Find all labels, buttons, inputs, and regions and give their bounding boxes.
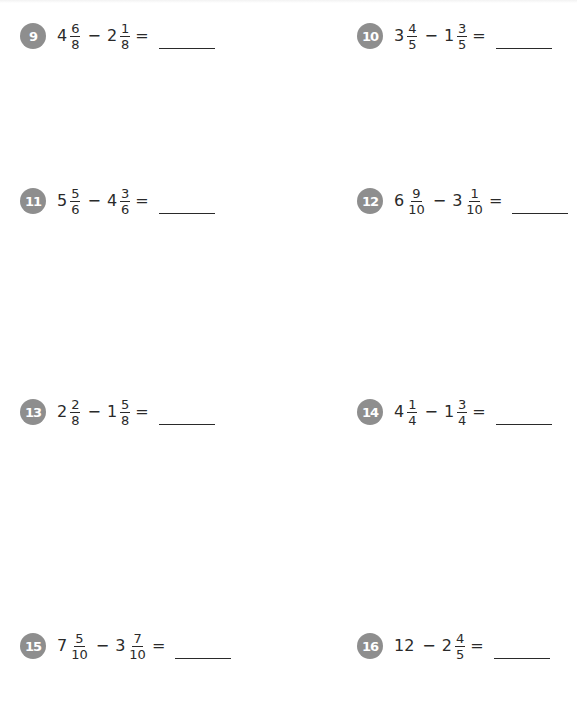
denominator: 4 (407, 413, 417, 427)
numerator: 5 (74, 632, 84, 647)
denominator: 6 (120, 202, 130, 216)
numerator: 6 (70, 22, 80, 37)
problem-9: 9 4 6 8 − 2 1 8 = (20, 18, 215, 54)
denominator: 8 (70, 413, 80, 427)
fraction: 3 5 (457, 22, 467, 51)
numerator: 2 (70, 398, 80, 413)
numerator: 3 (457, 22, 467, 37)
denominator: 5 (407, 37, 417, 51)
problem-number-badge: 15 (20, 633, 46, 659)
problem-14: 14 4 1 4 − 1 3 4 = (357, 394, 552, 430)
fraction: 6 8 (70, 22, 80, 51)
minus-sign: − (422, 638, 435, 654)
minus-sign: − (433, 193, 446, 209)
problem-number-badge: 16 (357, 633, 383, 659)
fraction: 7 10 (128, 632, 147, 661)
fraction: 2 8 (70, 398, 80, 427)
equation: 4 1 4 − 1 3 4 = (394, 398, 552, 427)
fraction: 3 6 (120, 187, 130, 216)
problem-16: 16 12 − 2 4 5 = (357, 628, 550, 664)
fraction: 1 4 (407, 398, 417, 427)
problem-15: 15 7 5 10 − 3 7 10 = (20, 628, 231, 664)
problem-12: 12 6 9 10 − 3 1 10 = (357, 183, 568, 219)
fraction: 4 5 (455, 632, 465, 661)
fraction: 5 10 (70, 632, 89, 661)
denominator: 4 (457, 413, 467, 427)
problem-number-badge: 13 (20, 399, 46, 425)
problem-number-badge: 11 (20, 188, 46, 214)
answer-blank[interactable] (494, 638, 550, 659)
minus-sign: − (87, 404, 100, 420)
whole-number: 2 (57, 404, 67, 420)
answer-blank[interactable] (512, 193, 568, 214)
whole-number: 1 (107, 404, 117, 420)
whole-number: 4 (394, 404, 404, 420)
fraction: 9 10 (407, 187, 426, 216)
fraction: 5 8 (120, 398, 130, 427)
equals-sign: = (472, 28, 485, 44)
whole-number: 1 (444, 28, 454, 44)
numerator: 4 (455, 632, 465, 647)
equals-sign: = (489, 193, 502, 209)
equals-sign: = (135, 404, 148, 420)
numerator: 4 (407, 22, 417, 37)
denominator: 10 (70, 647, 89, 661)
answer-blank[interactable] (159, 193, 215, 214)
equals-sign: = (472, 404, 485, 420)
problem-13: 13 2 2 8 − 1 5 8 = (20, 394, 215, 430)
denominator: 8 (120, 413, 130, 427)
whole-number: 5 (57, 193, 67, 209)
minus-sign: − (87, 28, 100, 44)
problem-number-badge: 12 (357, 188, 383, 214)
denominator: 5 (455, 647, 465, 661)
equals-sign: = (470, 638, 483, 654)
problem-number-badge: 10 (357, 23, 383, 49)
answer-blank[interactable] (496, 404, 552, 425)
equation: 7 5 10 − 3 7 10 = (57, 632, 231, 661)
numerator: 5 (70, 187, 80, 202)
numerator: 3 (120, 187, 130, 202)
numerator: 9 (411, 187, 421, 202)
equation: 3 4 5 − 1 3 5 = (394, 22, 552, 51)
answer-blank[interactable] (159, 404, 215, 425)
whole-number: 4 (57, 28, 67, 44)
numerator: 7 (132, 632, 142, 647)
whole-number: 3 (115, 638, 125, 654)
numerator: 1 (120, 22, 130, 37)
problem-number-badge: 9 (20, 23, 46, 49)
equation: 12 − 2 4 5 = (394, 632, 550, 661)
minus-sign: − (96, 638, 109, 654)
whole-number: 4 (107, 193, 117, 209)
numerator: 5 (120, 398, 130, 413)
denominator: 6 (70, 202, 80, 216)
answer-blank[interactable] (496, 28, 552, 49)
page-top-edge (0, 0, 577, 3)
denominator: 10 (465, 202, 484, 216)
equation: 5 5 6 − 4 3 6 = (57, 187, 215, 216)
denominator: 8 (120, 37, 130, 51)
whole-number: 2 (442, 638, 452, 654)
whole-number: 7 (57, 638, 67, 654)
denominator: 8 (70, 37, 80, 51)
problem-number-badge: 14 (357, 399, 383, 425)
whole-number: 3 (452, 193, 462, 209)
equation: 4 6 8 − 2 1 8 = (57, 22, 215, 51)
numerator: 1 (407, 398, 417, 413)
minus-sign: − (424, 404, 437, 420)
denominator: 5 (457, 37, 467, 51)
equals-sign: = (135, 193, 148, 209)
whole-number: 1 (444, 404, 454, 420)
answer-blank[interactable] (175, 638, 231, 659)
fraction: 1 8 (120, 22, 130, 51)
fraction: 5 6 (70, 187, 80, 216)
answer-blank[interactable] (159, 28, 215, 49)
whole-number: 3 (394, 28, 404, 44)
equation: 2 2 8 − 1 5 8 = (57, 398, 215, 427)
minus-sign: − (424, 28, 437, 44)
minus-sign: − (87, 193, 100, 209)
fraction: 4 5 (407, 22, 417, 51)
numerator: 1 (469, 187, 479, 202)
equals-sign: = (152, 638, 165, 654)
fraction: 3 4 (457, 398, 467, 427)
problem-10: 10 3 4 5 − 1 3 5 = (357, 18, 552, 54)
